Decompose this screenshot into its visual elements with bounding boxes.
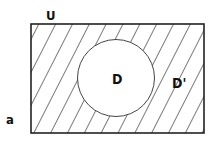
complement-label: D' — [172, 75, 186, 91]
panel-label: a — [6, 112, 14, 127]
universe-label: U — [46, 8, 56, 23]
venn-diagram: U D D' a — [0, 0, 214, 143]
set-d-label: D — [112, 71, 122, 87]
